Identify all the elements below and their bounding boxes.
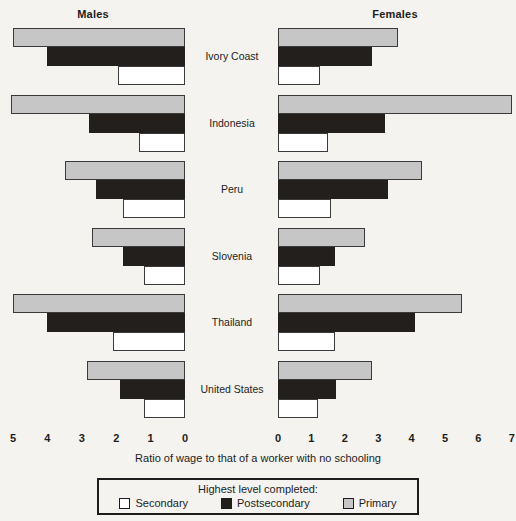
x-tick-females-0: 0 [270,432,286,444]
legend-swatch-secondary-icon [119,498,130,509]
bar-males-secondary [113,332,185,351]
country-label: Slovenia [186,250,278,262]
bar-males-postsecondary [123,247,185,266]
x-tick-males-0: 0 [177,432,193,444]
x-axis: 54321001234567 [0,432,516,450]
bar-males-primary [65,161,185,180]
country-label: Peru [186,183,278,195]
bar-females-postsecondary [278,247,335,266]
bar-males-postsecondary [47,47,185,66]
x-tick-females-5: 5 [437,432,453,444]
country-group: Ivory Coast [0,28,516,85]
bar-males-secondary [144,399,185,418]
x-tick-females-2: 2 [337,432,353,444]
bar-males-primary [13,294,185,313]
country-label: Ivory Coast [186,50,278,62]
x-tick-males-1: 1 [143,432,159,444]
x-tick-females-3: 3 [370,432,386,444]
legend: Highest level completed: SecondaryPostse… [97,478,419,515]
x-tick-males-5: 5 [5,432,21,444]
country-group: United States [0,361,516,418]
country-group: Indonesia [0,95,516,152]
bar-females-primary [278,361,372,380]
bar-females-postsecondary [278,180,388,199]
bar-males-postsecondary [89,114,185,133]
panel-header-males: Males [0,8,186,20]
bar-males-secondary [144,266,185,285]
country-label: Thailand [186,316,278,328]
bar-males-primary [13,28,185,47]
bar-males-secondary [118,66,185,85]
bar-females-primary [278,161,422,180]
legend-label: Postsecondary [237,497,310,509]
legend-title: Highest level completed: [103,483,413,495]
legend-item-postsecondary: Postsecondary [221,497,310,509]
country-label: Indonesia [186,117,278,129]
bar-males-secondary [139,133,185,152]
x-tick-males-4: 4 [39,432,55,444]
bar-females-postsecondary [278,380,336,399]
bar-females-postsecondary [278,313,415,332]
bar-males-primary [87,361,185,380]
x-tick-females-4: 4 [404,432,420,444]
bar-males-primary [92,228,185,247]
country-group: Thailand [0,294,516,351]
bar-males-postsecondary [120,380,185,399]
bar-males-postsecondary [47,313,185,332]
wage-ratio-chart: Males Females Ivory CoastIndonesiaPeruSl… [0,0,516,521]
legend-swatch-postsecondary-icon [221,498,232,509]
x-tick-females-6: 6 [470,432,486,444]
x-tick-females-7: 7 [504,432,516,444]
bar-females-primary [278,228,365,247]
bar-males-postsecondary [96,180,185,199]
bar-males-primary [11,95,185,114]
bar-females-primary [278,28,398,47]
legend-item-primary: Primary [343,497,397,509]
x-tick-males-3: 3 [74,432,90,444]
legend-swatch-primary-icon [343,498,354,509]
country-group: Peru [0,161,516,218]
axis-caption: Ratio of wage to that of a worker with n… [0,452,516,464]
plot-area: Ivory CoastIndonesiaPeruSloveniaThailand… [0,26,516,432]
bar-females-secondary [278,133,328,152]
bar-females-secondary [278,66,320,85]
legend-label: Primary [359,497,397,509]
bar-males-secondary [123,199,185,218]
bar-females-postsecondary [278,114,385,133]
bar-females-postsecondary [278,47,372,66]
bar-females-primary [278,95,512,114]
country-label: United States [186,383,278,395]
country-group: Slovenia [0,228,516,285]
x-tick-males-2: 2 [108,432,124,444]
panel-header-females: Females [278,8,512,20]
legend-label: Secondary [135,497,188,509]
bar-females-secondary [278,399,318,418]
bar-females-primary [278,294,462,313]
bar-females-secondary [278,199,331,218]
x-tick-females-1: 1 [303,432,319,444]
legend-item-secondary: Secondary [119,497,188,509]
bar-females-secondary [278,266,320,285]
bar-females-secondary [278,332,335,351]
legend-items: SecondaryPostsecondaryPrimary [103,497,413,509]
